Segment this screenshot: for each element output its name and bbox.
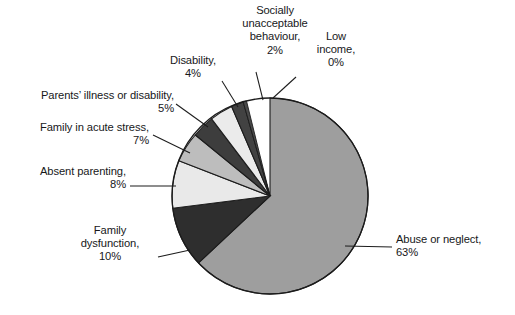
label-text-line2: income, [317,43,355,55]
leader-line-socially-unacceptable-behaviour [256,72,263,100]
pie-label-abuse-or-neglect: Abuse or neglect, 63% [396,233,508,259]
label-text-line1: Socially [256,4,294,16]
pie-label-absent-parenting: Absent parenting, 8% [22,165,126,191]
leader-line-low-income [273,77,296,98]
leader-line-disability [222,81,238,107]
label-text-line2: unacceptable [242,17,307,29]
leader-line-family-dysfunction [158,250,190,257]
label-percent: 5% [6,102,174,115]
leader-line-parents-illness-or-disability [176,104,208,127]
label-percent: 63% [396,246,508,259]
label-text-line1: Low [326,30,346,42]
pie-label-parents-illness-or-disability: Parents’ illness or disability, 5% [6,89,174,115]
label-text-line3: behaviour, [250,30,301,42]
pie-chart-figure: Socially unacceptable behaviour, 2% Low … [0,0,515,315]
pie-label-low-income: Low income, 0% [300,30,372,70]
label-text-line1: Parents’ illness or disability, [41,89,174,101]
label-text-line1: Family [94,224,126,236]
label-percent: 8% [22,178,126,191]
label-text-line1: Absent parenting, [40,165,126,177]
label-percent: 10% [66,250,154,263]
label-text-line1: Abuse or neglect, [396,233,481,245]
label-text-line2: dysfunction, [81,237,140,249]
pie-label-disability: Disability, 4% [152,54,234,80]
label-text-line1: Disability, [170,54,216,66]
pie-label-family-in-acute-stress: Family in acute stress, 7% [16,121,149,147]
label-percent: 7% [16,134,149,147]
label-text-line1: Family in acute stress, [40,121,149,133]
pie-label-family-dysfunction: Family dysfunction, 10% [66,224,154,264]
label-percent: 0% [300,56,372,69]
label-percent: 4% [152,67,234,80]
leader-line-family-in-acute-stress [153,135,190,153]
